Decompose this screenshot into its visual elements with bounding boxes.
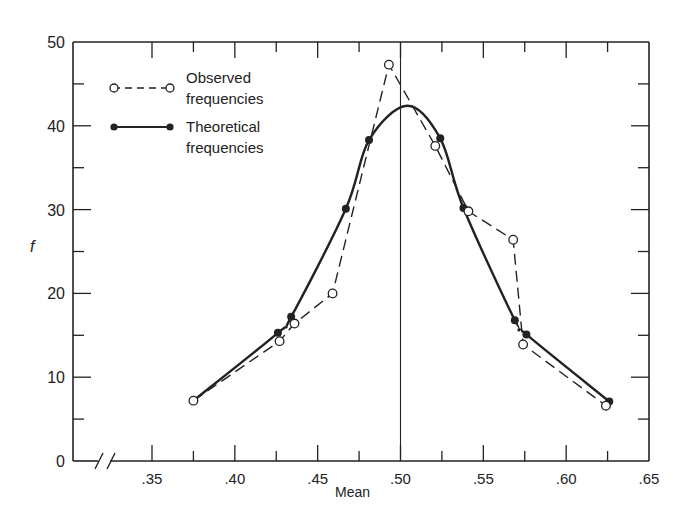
theoretical-point [522, 330, 530, 338]
observed-line [193, 65, 606, 406]
observed-point [431, 142, 440, 151]
x-tick-label: .55 [473, 470, 494, 487]
plot-frame [73, 42, 649, 469]
observed-point [509, 235, 518, 244]
observed-point [189, 396, 198, 405]
legend-theoretical-label: Theoretical [186, 118, 260, 135]
legend-observed-label: Observed [186, 69, 251, 86]
x-tick-label: .40 [224, 470, 245, 487]
observed-point [385, 60, 394, 69]
theoretical-point [342, 205, 350, 213]
legend-observed-label: frequencies [186, 90, 264, 107]
x-tick-label: .45 [307, 470, 328, 487]
observed-point [519, 340, 528, 349]
y-tick-label: 40 [47, 118, 65, 135]
legend-observed-marker [110, 84, 118, 92]
legend-theoretical-marker [110, 123, 117, 130]
axis-ticks [73, 42, 649, 461]
axis-tick-labels: .35.40.45.50.55.60.6501020304050 [47, 34, 659, 487]
x-tick-label: .60 [556, 470, 577, 487]
chart: .35.40.45.50.55.60.6501020304050 Observe… [0, 0, 678, 527]
y-axis-label: f [30, 238, 36, 255]
y-tick-label: 0 [56, 453, 65, 470]
y-tick-label: 20 [47, 285, 65, 302]
y-tick-label: 50 [47, 34, 65, 51]
y-tick-label: 10 [47, 369, 65, 386]
observed-point [328, 289, 337, 298]
x-tick-label: .65 [639, 470, 660, 487]
x-tick-label: .35 [142, 470, 163, 487]
x-tick-label: .50 [390, 470, 411, 487]
observed-point [464, 207, 473, 216]
y-tick-label: 30 [47, 202, 65, 219]
observed-point [290, 319, 299, 328]
observed-point [602, 401, 611, 410]
legend-observed-marker [166, 84, 174, 92]
theoretical-point [274, 329, 282, 337]
legend-theoretical-marker [166, 123, 173, 130]
theoretical-point [436, 134, 444, 142]
legend-theoretical-label: frequencies [186, 139, 264, 156]
theoretical-point [511, 316, 519, 324]
series-observed [189, 60, 610, 410]
legend: Observed frequencies Theoretical frequen… [110, 69, 264, 156]
x-axis-label: Mean [335, 484, 370, 500]
observed-point [275, 337, 284, 346]
